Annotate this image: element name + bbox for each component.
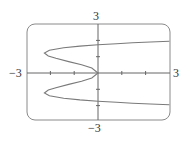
x-max-label: 3 (173, 67, 179, 79)
y-max-label: 3 (93, 10, 99, 22)
y-min-label: −3 (88, 122, 101, 134)
x-min-label: −3 (9, 67, 22, 79)
